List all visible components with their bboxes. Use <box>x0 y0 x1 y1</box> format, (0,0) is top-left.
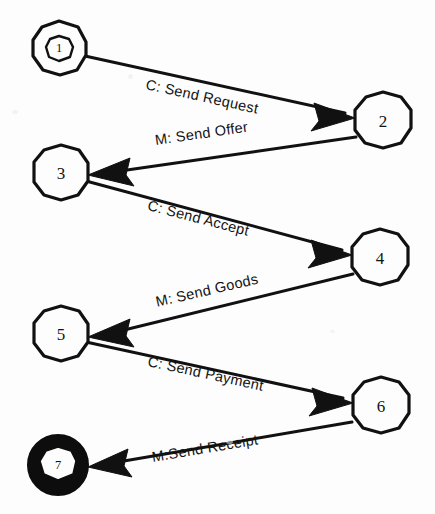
state-node-6[interactable]: 6 <box>353 377 409 433</box>
state-node-7[interactable]: 7 <box>28 435 88 495</box>
edge-1-to-2-arrowhead <box>311 103 355 131</box>
state-node-4-label: 4 <box>376 249 385 268</box>
edge-5-to-6 <box>86 342 353 416</box>
edge-6-to-7-line <box>118 422 352 462</box>
state-node-1[interactable]: 1 <box>33 21 86 75</box>
diagram-svg: 1 2 3 4 5 6 7 <box>0 0 435 514</box>
state-node-1-label: 1 <box>56 41 62 55</box>
state-diagram-canvas: 1 2 3 4 5 6 7 <box>0 0 435 514</box>
state-node-2[interactable]: 2 <box>355 92 411 148</box>
edge-3-to-4-arrowhead <box>308 240 352 268</box>
state-node-7-label: 7 <box>55 458 61 472</box>
edge-6-to-7 <box>88 422 352 477</box>
edge-2-to-3-arrowhead <box>88 158 134 186</box>
scan-speck <box>226 440 233 444</box>
edge-4-to-5-line <box>120 274 353 331</box>
scan-speck <box>330 330 335 333</box>
edge-5-to-6-arrowhead <box>309 388 353 416</box>
edge-1-to-2-line <box>85 56 345 113</box>
state-node-3[interactable]: 3 <box>34 145 88 200</box>
state-node-5-label: 5 <box>57 325 66 344</box>
edge-2-to-3-line <box>120 137 356 171</box>
state-node-5[interactable]: 5 <box>34 306 88 361</box>
state-node-4[interactable]: 4 <box>352 229 408 285</box>
edge-3-to-4 <box>86 181 352 268</box>
edge-6-to-7-arrowhead <box>88 449 132 477</box>
edge-1-to-2 <box>85 56 355 131</box>
state-node-2-label: 2 <box>379 112 388 131</box>
edge-2-to-3 <box>88 137 356 186</box>
edge-5-to-6-line <box>86 342 343 398</box>
scan-speck <box>128 74 133 79</box>
edge-3-to-4-line <box>86 181 342 250</box>
edge-4-to-5 <box>88 274 353 347</box>
state-node-3-label: 3 <box>57 164 66 183</box>
state-node-6-label: 6 <box>377 397 386 416</box>
scan-speck <box>12 110 18 114</box>
